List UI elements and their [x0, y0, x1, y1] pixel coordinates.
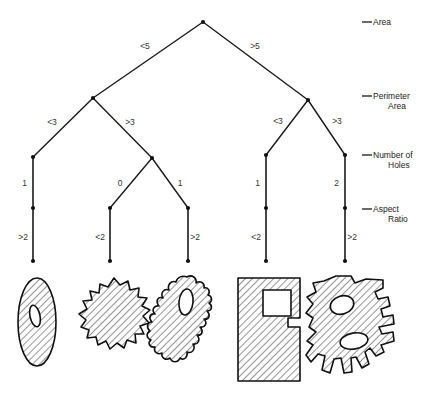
shape-rect-notch [238, 278, 300, 381]
tree-edge-e-root-right [203, 22, 308, 100]
tree-node-root [201, 20, 205, 24]
tree-node-leaf-5 [343, 259, 347, 263]
shapes-group [18, 276, 394, 381]
legend-label-perimeter-area: PerimeterArea [373, 91, 410, 111]
shape-gear-blob [79, 278, 150, 349]
tree-edges-group [33, 22, 345, 261]
tree-node-n-right [306, 98, 310, 102]
tree-edge-e-right-rl [266, 100, 308, 155]
tree-node-n-lr-b [186, 206, 190, 210]
shape-complex [306, 276, 394, 373]
tree-edge-e-left-ll [33, 98, 93, 157]
legend-label-line: Number of [373, 150, 413, 160]
tree-edge-e-lr-a [110, 158, 152, 208]
tree-edge-e-root-left [93, 22, 203, 98]
edge-label-e-rr-a: 2 [334, 178, 339, 188]
tree-node-leaf-4 [264, 259, 268, 263]
tree-edge-e-right-rr [308, 100, 345, 155]
edge-label-e-rl-a: 1 [255, 178, 260, 188]
shape-ellipse [18, 278, 56, 366]
legend-group: AreaPerimeterAreaNumber ofHolesAspectRat… [362, 17, 413, 224]
legend-label-line: Perimeter [373, 91, 410, 101]
edge-label-e-leaf-3: >2 [190, 232, 200, 242]
tree-node-n-rr-a [343, 206, 347, 210]
edge-label-e-left-ll: <3 [47, 117, 57, 127]
tree-node-leaf-1 [31, 259, 35, 263]
legend-label-number-of-holes: Number ofHoles [373, 150, 413, 170]
tree-node-n-rr [343, 153, 347, 157]
edge-label-e-right-rl: <3 [273, 116, 283, 126]
tree-nodes-group [31, 20, 347, 263]
edge-label-e-root-right: >5 [250, 41, 260, 51]
edge-label-e-leaf-5: >2 [347, 232, 357, 242]
edge-label-e-left-lr: >3 [125, 117, 135, 127]
figure-canvas: <5>5<3>3<3>310112>2<2>2<2>2 AreaPerimete… [0, 0, 437, 395]
legend-label-line: Aspect [373, 204, 400, 214]
tree-node-leaf-2 [108, 259, 112, 263]
tree-edge-e-lr-b [152, 158, 188, 208]
legend-label-line: Holes [388, 160, 410, 170]
edge-label-e-ll-a: 1 [22, 178, 27, 188]
tree-node-n-left [91, 96, 95, 100]
tree-node-n-ll [31, 155, 35, 159]
legend-label-line: Area [373, 17, 391, 27]
edge-label-e-leaf-1: >2 [18, 232, 28, 242]
legend-label-aspect-ratio: AspectRatio [373, 204, 408, 224]
edge-label-e-lr-a: 0 [118, 178, 123, 188]
edge-label-e-leaf-2: <2 [95, 232, 105, 242]
tree-node-n-rl-a [264, 206, 268, 210]
tree-node-n-rl [264, 153, 268, 157]
tree-node-leaf-3 [186, 259, 190, 263]
legend-label-area: Area [373, 17, 391, 27]
tree-node-n-lr-a [108, 206, 112, 210]
legend-label-line: Area [388, 101, 406, 111]
tree-node-n-ll-a [31, 206, 35, 210]
edge-label-e-lr-b: 1 [178, 178, 183, 188]
tree-edge-e-left-lr [93, 98, 152, 158]
decision-tree-figure: <5>5<3>3<3>310112>2<2>2<2>2 AreaPerimete… [0, 0, 437, 395]
legend-label-line: Ratio [388, 214, 408, 224]
edge-label-e-right-rr: >3 [332, 116, 342, 126]
tree-node-n-lr [150, 156, 154, 160]
shape-wiggly [147, 276, 211, 362]
edge-label-e-leaf-4: <2 [251, 232, 261, 242]
edge-label-e-root-left: <5 [140, 41, 150, 51]
